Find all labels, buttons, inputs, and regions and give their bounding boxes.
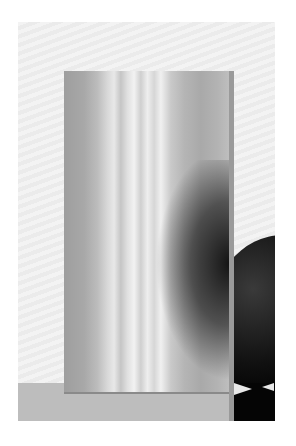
light-glint-right [262,383,274,391]
glass-block-edge [229,71,234,421]
light-glint [234,383,252,395]
sphere-refraction-in-block [150,160,230,390]
